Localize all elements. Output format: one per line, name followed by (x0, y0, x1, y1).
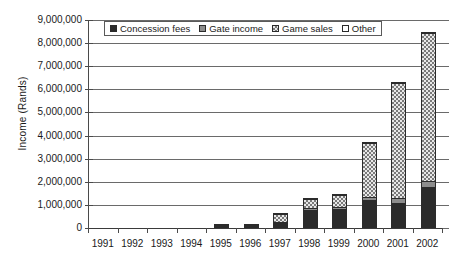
legend-item[interactable]: Game sales (272, 24, 333, 34)
bar-segment (332, 209, 347, 228)
x-axis-tick-mark (88, 228, 89, 233)
bar-group[interactable] (96, 20, 111, 228)
bar-segment (421, 187, 436, 228)
bar-stack (332, 195, 347, 228)
x-axis-tick-label: 1999 (324, 238, 354, 250)
x-axis-tick-label: 2002 (413, 238, 443, 250)
legend-swatch-icon (272, 25, 279, 32)
x-axis-tick-mark (147, 228, 148, 233)
legend-item[interactable]: Concession fees (110, 24, 190, 34)
bar-segment (391, 83, 406, 199)
y-axis-tick-label: 9,000,000 (6, 15, 82, 25)
plot-area (88, 20, 442, 228)
x-axis-tick-label: 1991 (88, 238, 118, 250)
bar-group[interactable] (332, 20, 347, 228)
x-axis-tick-label: 2001 (383, 238, 413, 250)
x-axis-tick-label: 1994 (177, 238, 207, 250)
bar-group[interactable] (185, 20, 200, 228)
x-axis-tick-label: 1998 (295, 238, 325, 250)
x-axis-tick-mark (177, 228, 178, 233)
chart-legend: Concession feesGate incomeGame salesOthe… (104, 21, 382, 36)
bar-group[interactable] (362, 20, 377, 228)
bar-group[interactable] (155, 20, 170, 228)
x-axis-tick-mark (413, 228, 414, 233)
bar-stack (273, 214, 288, 228)
x-axis-tick-labels: 1991199219931994199519961997199819992000… (88, 238, 442, 256)
legend-item-label: Concession fees (120, 24, 190, 34)
y-axis-tick-label: 5,000,000 (6, 107, 82, 117)
bar-segment (421, 33, 436, 182)
legend-item-label: Game sales (282, 24, 333, 34)
x-axis-tick-label: 1995 (206, 238, 236, 250)
x-axis-tick-label: 2000 (354, 238, 384, 250)
y-axis-tick-labels: 9,000,0008,000,0007,000,0006,000,0005,00… (6, 0, 82, 271)
y-axis-tick-label: 1,000,000 (6, 200, 82, 210)
bar-stack (421, 33, 436, 228)
legend-swatch-icon (110, 25, 117, 32)
bar-group[interactable] (126, 20, 141, 228)
bar-stack (362, 143, 377, 228)
bar-group[interactable] (244, 20, 259, 228)
x-axis-tick-mark (442, 228, 443, 233)
bar-segment (391, 203, 406, 228)
bar-group[interactable] (273, 20, 288, 228)
x-axis-tick-label: 1996 (236, 238, 266, 250)
x-axis-tick-mark (383, 228, 384, 233)
y-axis-tick-label: 6,000,000 (6, 84, 82, 94)
bar-group[interactable] (214, 20, 229, 228)
y-axis-tick-label: 3,000,000 (6, 154, 82, 164)
y-axis-tick-label: 2,000,000 (6, 177, 82, 187)
x-axis-tick-mark (206, 228, 207, 233)
bar-group[interactable] (303, 20, 318, 228)
legend-swatch-icon (342, 25, 349, 32)
y-axis-tick-label: 4,000,000 (6, 131, 82, 141)
bars-layer (89, 20, 443, 228)
legend-swatch-icon (199, 25, 206, 32)
stacked-bar-chart: Income (Rands) 9,000,0008,000,0007,000,0… (0, 0, 457, 271)
x-axis-tick-mark (265, 228, 266, 233)
bar-segment (303, 210, 318, 228)
x-axis-tick-mark (236, 228, 237, 233)
bar-stack (391, 83, 406, 228)
x-axis-tick-label: 1997 (265, 238, 295, 250)
legend-item[interactable]: Gate income (199, 24, 263, 34)
y-axis-tick-label: 0 (6, 223, 82, 233)
bar-segment (362, 143, 377, 198)
x-axis-tick-label: 1992 (118, 238, 148, 250)
x-axis-tick-mark (354, 228, 355, 233)
bar-segment (362, 200, 377, 228)
legend-item-label: Other (352, 24, 376, 34)
y-axis-tick-label: 8,000,000 (6, 38, 82, 48)
x-axis-tick-mark (324, 228, 325, 233)
bar-stack (303, 199, 318, 228)
x-axis-tick-mark (118, 228, 119, 233)
x-axis-tick-mark (295, 228, 296, 233)
y-axis-tick-label: 7,000,000 (6, 61, 82, 71)
legend-item[interactable]: Other (342, 24, 376, 34)
bar-group[interactable] (391, 20, 406, 228)
legend-item-label: Gate income (209, 24, 263, 34)
x-axis-ticks (88, 228, 442, 234)
bar-group[interactable] (421, 20, 436, 228)
x-axis-tick-label: 1993 (147, 238, 177, 250)
